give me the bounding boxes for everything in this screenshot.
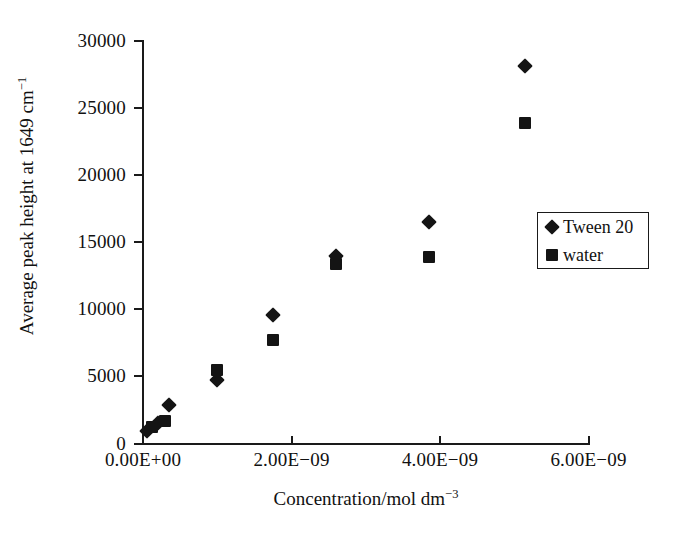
y-axis-title: Average peak height at 1649 cm−1 <box>17 16 37 396</box>
y-tick-mark <box>134 308 143 310</box>
data-point-diamond <box>161 397 177 413</box>
x-tick-label: 6.00E−09 <box>519 450 659 469</box>
y-axis-title-exponent: −1 <box>15 77 29 90</box>
data-point-diamond <box>421 214 437 230</box>
data-point-square <box>423 251 435 263</box>
data-point-square <box>519 117 531 129</box>
data-point-square <box>211 364 223 376</box>
plot-area <box>143 41 588 444</box>
chart-figure: 050001000015000200002500030000 0.00E+002… <box>0 0 690 533</box>
y-tick-mark <box>134 107 143 109</box>
x-tick-label: 0.00E+00 <box>73 450 213 469</box>
y-tick-mark <box>134 40 143 42</box>
legend-marker-square <box>546 249 558 261</box>
data-point-diamond <box>518 59 534 75</box>
square-icon <box>545 248 561 262</box>
legend-label: Tween 20 <box>563 218 633 236</box>
data-point-square <box>267 334 279 346</box>
y-tick-label: 20000 <box>56 165 126 184</box>
y-tick-mark <box>134 241 143 243</box>
x-tick-label: 4.00E−09 <box>370 450 510 469</box>
y-tick-label: 30000 <box>56 31 126 50</box>
data-point-diamond <box>265 307 281 323</box>
x-axis-title-text: Concentration/mol dm <box>274 488 446 509</box>
legend-marker-diamond <box>544 219 560 235</box>
data-point-square <box>330 258 342 270</box>
y-axis-title-text: Average peak height at 1649 cm <box>16 90 37 335</box>
data-point-square <box>146 421 158 433</box>
y-tick-label: 15000 <box>56 232 126 251</box>
data-point-square <box>159 415 171 427</box>
legend-item: water <box>538 241 648 269</box>
y-tick-label: 25000 <box>56 98 126 117</box>
x-axis-title: Concentration/mol dm−3 <box>143 489 589 509</box>
y-tick-mark <box>134 375 143 377</box>
y-tick-label: 5000 <box>56 366 126 385</box>
x-axis-title-exponent: −3 <box>445 487 458 501</box>
legend-item: Tween 20 <box>538 213 648 241</box>
legend: Tween 20water <box>537 212 649 269</box>
x-tick-label: 2.00E−09 <box>222 450 362 469</box>
y-tick-label: 10000 <box>56 299 126 318</box>
diamond-icon <box>545 220 561 234</box>
y-tick-mark <box>134 174 143 176</box>
legend-label: water <box>563 246 603 264</box>
